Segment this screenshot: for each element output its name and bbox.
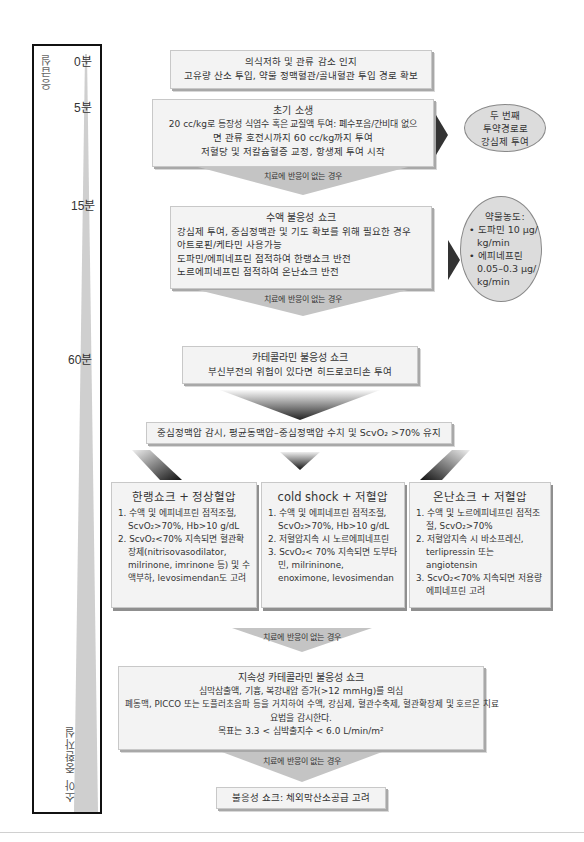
initial-resuscitation-line-3: 저혈당 및 저칼슘혈증 교정, 항생제 투여 시작	[159, 145, 427, 159]
initial-resuscitation-title: 초기 소생	[159, 104, 427, 118]
catecholamine-resistant-line-1: 부신부전의 위험이 있다면 히드로코티손 투여	[189, 365, 411, 379]
recognition-box: 의식저하 및 관류 감소 인지 고유량 산소 투입, 약물 정맥혈관/골내혈관 …	[170, 50, 432, 89]
time-mark-15: 15분	[71, 196, 95, 213]
column-item: 3. ScvO₂< 70% 지속되면 도부타민, milrininone, en…	[268, 546, 398, 585]
fluid-refractory-line-3: 도파민/에피네프린 점적하여 한랭쇼크 반전	[177, 252, 425, 266]
persistent-line-3: 요법을 감시한다.	[125, 712, 477, 726]
refractory-line: 불응성 쇼크: 체외막산소공급 고려	[223, 791, 379, 805]
catecholamine-resistant-title: 카테콜라민 불응성 쇼크	[189, 351, 411, 365]
no-response-arrow-4: 치료에 반응이 없는 경우	[222, 752, 382, 782]
branch-arrow-center	[280, 452, 320, 470]
persistent-shock-title: 지속성 카테콜라민 불응성 쇼크	[125, 671, 477, 685]
drug-dose-bullet-1a: • 도파민 10 μg/	[469, 223, 538, 236]
drug-dose-bullet-2c: kg/min	[469, 275, 510, 288]
fluid-refractory-line-4: 노르에피네프린 점적하여 온난쇼크 반전	[177, 265, 425, 279]
refractory-shock-box: 불응성 쇼크: 체외막산소공급 고려	[216, 787, 386, 809]
second-route-line-1: 두 번째	[490, 109, 520, 122]
no-response-arrow-3: 치료에 반응이 없는 경우	[232, 628, 372, 652]
branch-arrow-right	[420, 450, 470, 480]
time-mark-0: 0분	[74, 52, 92, 69]
time-mark-60: 60분	[68, 350, 92, 367]
fluid-refractory-line-1: 강심제 투여, 중심정맥관 및 기도 확보를 위해 필요한 경우	[177, 225, 425, 239]
column-warm-hypotension: 온난쇼크 + 저혈압 1. 수액 및 노르에피네프린 점적조절, ScvO₂>7…	[409, 482, 551, 608]
persistent-shock-box: 지속성 카테콜라민 불응성 쇼크 심막삼출액, 기흉, 복강내압 증가(>12 …	[118, 666, 484, 750]
column-item: 2. 저혈압지속 시 바소프레신, terlipressin 또는 angiot…	[416, 533, 544, 572]
fluid-refractory-box: 수액 불응성 쇼크 강심제 투여, 중심정맥관 및 기도 확보를 위해 필요한 …	[170, 206, 432, 289]
column-item: 2. 저혈압지속 시 노르에피네프린	[268, 533, 398, 546]
drug-dose-title: 약물농도:	[485, 210, 524, 223]
timeline-frame: 응급실 소아 중환자실	[32, 44, 102, 814]
column-item: 1. 수액 및 에피네프린 점적조절, ScvO₂>70%, Hb>10 g/d…	[268, 507, 398, 533]
fluid-refractory-title: 수액 불응성 쇼크	[177, 211, 425, 225]
caption-divider	[0, 832, 584, 833]
initial-resuscitation-box: 초기 소생 20 cc/kg로 등장성 식염수 혹은 교질액 투여: 폐수포음/…	[152, 99, 434, 167]
side-pointer-icon	[448, 240, 460, 284]
second-route-line-2: 투약경로로	[483, 122, 528, 135]
column-item: 3. ScvO₂<70% 지속되면 저용량 에피네프린 고려	[416, 572, 544, 598]
fluid-refractory-line-2: 아트로핀/케타민 사용가능	[177, 238, 425, 252]
drug-dose-bullet-2b: 0.05–0.3 μg/	[469, 262, 536, 275]
timeline-label-picu: 소아 중환자실	[64, 726, 80, 803]
branch-arrow-left	[132, 450, 182, 480]
column-item: 1. 수액 및 에피네프린 점적조절, ScvO₂>70%, Hb>10 g/d…	[118, 507, 250, 533]
recognition-line-1: 의식저하 및 관류 감소 인지	[177, 55, 425, 69]
persistent-line-4: 목표는 3.3 < 심박출지수 < 6.0 L/min/m²	[125, 725, 477, 739]
column-title: 온난쇼크 + 저혈압	[416, 491, 544, 504]
drug-dose-bullet-1b: kg/min	[469, 236, 510, 249]
time-wedge	[68, 54, 104, 812]
persistent-line-2: 폐동맥, PICCO 또는 도플러초음파 등을 거치하여 수액, 강심제, 혈관…	[125, 698, 477, 712]
no-response-label: 치료에 반응이 없는 경우	[222, 755, 382, 766]
monitoring-box: 중심정맥압 감시, 평균동맥압–중심정맥압 수치 및 ScvO₂ >70% 유지	[146, 422, 452, 444]
time-mark-5: 5분	[74, 98, 92, 115]
persistent-line-1: 심막삼출액, 기흉, 복강내압 증가(>12 mmHg)를 의심	[125, 685, 477, 699]
second-route-note: 두 번째 투약경로로 강심제 투여	[464, 104, 546, 152]
side-pointer-icon	[436, 115, 448, 159]
column-title: 한랭쇼크 + 정상혈압	[118, 491, 250, 504]
no-response-arrow-2: 치료에 반응이 없는 경우	[198, 290, 408, 316]
funnel-arrow	[220, 390, 380, 420]
drug-dose-note: 약물농도: • 도파민 10 μg/ kg/min • 에피네프린 0.05–0…	[460, 196, 542, 302]
timeline-label-er: 응급실	[40, 54, 56, 90]
no-response-arrow-1: 치료에 반응이 없는 경우	[198, 167, 408, 195]
no-response-label: 치료에 반응이 없는 경우	[198, 293, 408, 304]
no-response-label: 치료에 반응이 없는 경우	[198, 170, 408, 181]
no-response-label: 치료에 반응이 없는 경우	[232, 631, 372, 642]
second-route-line-3: 강심제 투여	[481, 135, 529, 148]
initial-resuscitation-line-2: 면 관류 호전시까지 60 cc/kg까지 투여	[159, 131, 427, 145]
column-title: cold shock + 저혈압	[268, 491, 398, 504]
column-item: 2. ScvO₂<70% 지속되면 혈관확장제(nitrisovasodilat…	[118, 533, 250, 585]
column-item: 1. 수액 및 노르에피네프린 점적조절, ScvO₂>70%	[416, 507, 544, 533]
column-cold-normotension: 한랭쇼크 + 정상혈압 1. 수액 및 에피네프린 점적조절, ScvO₂>70…	[111, 482, 257, 608]
column-cold-hypotension: cold shock + 저혈압 1. 수액 및 에피네프린 점적조절, Scv…	[261, 482, 405, 608]
drug-dose-bullet-2a: • 에피네프린	[469, 249, 523, 262]
recognition-line-2: 고유량 산소 투입, 약물 정맥혈관/골내혈관 투입 경로 확보	[177, 69, 425, 83]
monitoring-line: 중심정맥압 감시, 평균동맥압–중심정맥압 수치 및 ScvO₂ >70% 유지	[153, 426, 445, 440]
initial-resuscitation-line-1: 20 cc/kg로 등장성 식염수 혹은 교질액 투여: 폐수포음/간비대 없으	[159, 118, 427, 132]
catecholamine-resistant-box: 카테콜라민 불응성 쇼크 부신부전의 위험이 있다면 히드로코티손 투여	[182, 346, 418, 384]
